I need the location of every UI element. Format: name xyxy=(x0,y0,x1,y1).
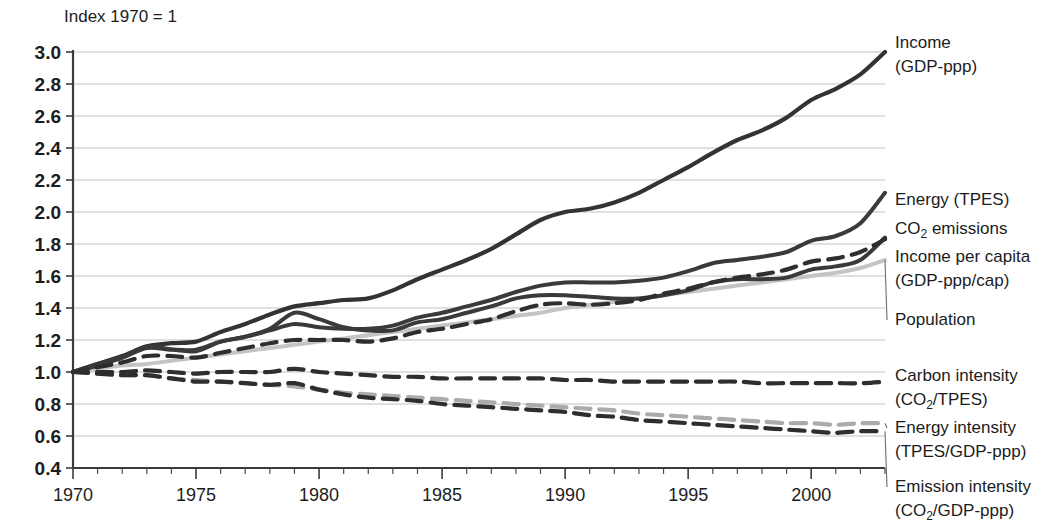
legend-label-income: Income xyxy=(895,33,951,52)
legend-label-energy-intensity: Energy intensity xyxy=(895,418,1016,437)
y-tick-label: 2.4 xyxy=(35,138,62,159)
y-tick-label: 1.2 xyxy=(35,330,61,351)
legend-label-income-per-capita-sub: (GDP-ppp/cap) xyxy=(895,271,1009,290)
legend-label-carbon-intensity-sub: (CO2/TPES) xyxy=(895,390,988,412)
x-tick-label: 1985 xyxy=(422,485,462,505)
y-tick-label: 2.8 xyxy=(35,74,61,95)
y-tick-label: 0.8 xyxy=(35,394,61,415)
x-tick-label: 1970 xyxy=(53,485,93,505)
chart-title: Index 1970 = 1 xyxy=(64,7,177,26)
x-tick-label: 1990 xyxy=(545,485,585,505)
y-tick-label: 0.4 xyxy=(35,458,62,479)
chart-container: 0.40.60.81.01.21.41.61.82.02.22.42.62.83… xyxy=(0,0,1062,527)
y-tick-label: 2.6 xyxy=(35,106,61,127)
legend-leader-line xyxy=(885,431,887,487)
legend-label-co2-emissions: CO2 emissions xyxy=(895,219,1008,241)
legend-label-emission-intensity: Emission intensity xyxy=(895,477,1032,496)
legend-label-energy-intensity-sub: (TPES/GDP-ppp) xyxy=(895,442,1026,461)
legend-label-carbon-intensity: Carbon intensity xyxy=(895,366,1018,385)
y-tick-label: 2.2 xyxy=(35,170,61,191)
legend-leader-line xyxy=(885,260,887,320)
x-tick-label: 2000 xyxy=(791,485,831,505)
leader-lines-group xyxy=(885,260,887,487)
line-chart-svg: 0.40.60.81.01.21.41.61.82.02.22.42.62.83… xyxy=(0,0,1062,527)
legend-label-income-per-capita: Income per capita xyxy=(895,247,1031,266)
legend-label-emission-intensity-sub: (CO2/GDP-ppp) xyxy=(895,501,1014,523)
legend-leader-line xyxy=(885,423,887,428)
x-axis-tick-labels: 1970197519801985199019952000 xyxy=(53,485,831,505)
y-tick-label: 0.6 xyxy=(35,426,61,447)
y-tick-label: 1.4 xyxy=(35,298,62,319)
y-tick-label: 1.0 xyxy=(35,362,61,383)
legend-label-income-sub: (GDP-ppp) xyxy=(895,57,977,76)
x-tick-label: 1980 xyxy=(299,485,339,505)
y-tick-label: 3.0 xyxy=(35,42,61,63)
legend-label-population: Population xyxy=(895,310,975,329)
y-tick-label: 1.6 xyxy=(35,266,61,287)
legend-labels-group: Income(GDP-ppp)Energy (TPES)CO2 emission… xyxy=(895,33,1032,523)
x-tick-label: 1995 xyxy=(668,485,708,505)
x-tick-label: 1975 xyxy=(176,485,216,505)
data-series-group xyxy=(73,52,885,433)
series-line xyxy=(73,260,885,372)
y-axis-tick-labels: 0.40.60.81.01.21.41.61.82.02.22.42.62.83… xyxy=(35,42,62,479)
legend-label-energy: Energy (TPES) xyxy=(895,190,1009,209)
y-tick-label: 2.0 xyxy=(35,202,61,223)
y-tick-label: 1.8 xyxy=(35,234,61,255)
